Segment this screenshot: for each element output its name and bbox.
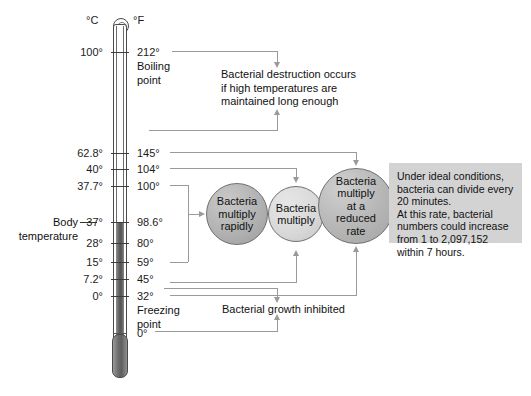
ideal-conditions-info-box: Under ideal conditions, bacteria can div… (389, 163, 522, 243)
celsius-label-40: 40° (43, 163, 103, 175)
tick-45 (111, 279, 129, 280)
tick-100 (111, 186, 129, 187)
arrow-45-up (353, 246, 359, 252)
celsius-label-100: 100° (43, 46, 103, 58)
circle-bacteria-multiply-rapidly: Bacteria multiply rapidly (206, 183, 268, 245)
fahrenheit-label-145: 145° (137, 147, 160, 159)
celsius-label-0: 0° (43, 290, 103, 302)
fahrenheit-label-80: 80° (137, 237, 154, 249)
fahrenheit-label-104: 104° (137, 163, 160, 175)
connector-45-horizontal (170, 295, 356, 296)
connector-45-vertical (356, 252, 357, 296)
connector-bracket-bottom-horizontal (170, 262, 188, 263)
arrow-59-up (293, 250, 299, 256)
tick-104 (111, 169, 129, 170)
tick-0f (113, 333, 127, 334)
connector-104-horizontal (170, 168, 296, 169)
connector-destruction-lower-horizontal (149, 130, 277, 131)
connector-59-vertical (296, 256, 297, 283)
tick-80 (111, 243, 129, 244)
boiling-point-label: Boiling point (137, 60, 170, 87)
connector-145-horizontal (170, 152, 356, 153)
fahrenheit-label-59: 59° (137, 256, 154, 268)
body-temperature-label: Body temperature (8, 216, 78, 243)
connector-212-horizontal (172, 51, 277, 52)
celsius-label-37-7: 37.7° (43, 180, 103, 192)
fahrenheit-label-100: 100° (137, 180, 160, 192)
fahrenheit-label-98-6: 98.6° (137, 216, 163, 228)
fahrenheit-unit-label: °F (133, 14, 144, 26)
connector-32-horizontal (164, 288, 277, 289)
bacterial-destruction-callout: Bacterial destruction occurs if high tem… (221, 68, 356, 109)
connector-bracket-vertical (188, 185, 189, 262)
circle-multiply-label: Bacteria multiply (276, 202, 316, 227)
thermometer-mercury-column (116, 222, 124, 349)
bacterial-growth-inhibited-callout: Bacterial growth inhibited (222, 303, 345, 317)
arrow-145-down (353, 160, 359, 166)
thermometer (105, 14, 135, 366)
connector-59-horizontal (170, 282, 296, 283)
tick-98-6 (111, 222, 129, 223)
connector-destruction-lower-vertical (277, 114, 278, 131)
fahrenheit-label-32: 32° (137, 290, 154, 302)
connector-0f-vertical (277, 319, 278, 332)
celsius-label-62-8: 62.8° (43, 147, 103, 159)
fahrenheit-label-45: 45° (137, 273, 154, 285)
tick-212 (111, 52, 129, 53)
fahrenheit-label-0: 0° (137, 327, 148, 339)
thermometer-bulb (112, 334, 128, 378)
body-temperature-leader-line (80, 222, 97, 223)
connector-100-horizontal (170, 185, 188, 186)
arrow-destruction-up (274, 109, 280, 115)
tick-145 (111, 153, 129, 154)
thermometer-bacterial-growth-diagram: °C °F 100° 62.8° 40° 37.7° 37° 28° 15° 7… (0, 0, 531, 396)
tick-32 (111, 296, 129, 297)
celsius-label-7-2: 7.2° (43, 273, 103, 285)
circle-bacteria-multiply-reduced-rate: Bacteria multiply at a reduced rate (318, 168, 394, 244)
tick-59 (111, 262, 129, 263)
connector-0f-horizontal (155, 331, 277, 332)
celsius-unit-label: °C (86, 14, 98, 26)
fahrenheit-label-212: 212° (137, 46, 160, 58)
arrow-rapid-right (199, 211, 205, 217)
celsius-label-15: 15° (43, 256, 103, 268)
circle-rapid-label: Bacteria multiply rapidly (217, 195, 257, 233)
arrow-104-down (293, 177, 299, 183)
circle-bacteria-multiply: Bacteria multiply (268, 186, 324, 242)
circle-reduced-label: Bacteria multiply at a reduced rate (336, 175, 376, 238)
